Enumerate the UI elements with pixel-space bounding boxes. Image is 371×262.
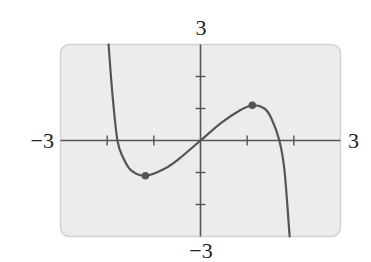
x-min-label: −3 bbox=[31, 128, 54, 153]
y-min-label: −3 bbox=[189, 238, 212, 262]
graphing-calculator-plot: 3 −3 −3 3 bbox=[0, 0, 371, 262]
extremum-point-marker bbox=[249, 102, 257, 110]
extremum-point-marker bbox=[142, 172, 150, 180]
y-max-label: 3 bbox=[196, 15, 207, 40]
x-max-label: 3 bbox=[348, 128, 359, 153]
